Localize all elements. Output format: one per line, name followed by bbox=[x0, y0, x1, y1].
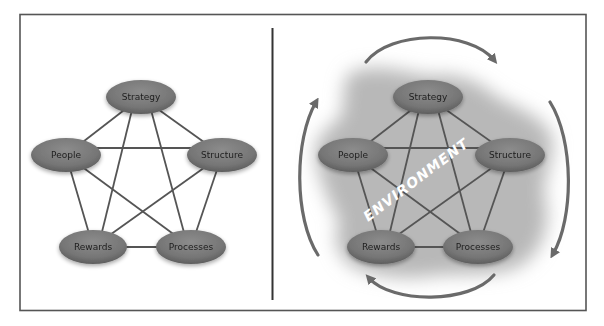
node-strategy-right: Strategy bbox=[393, 80, 463, 114]
node-processes-left: Processes bbox=[156, 230, 226, 264]
node-processes-right: Processes bbox=[443, 230, 513, 264]
node-label: People bbox=[338, 150, 368, 160]
node-structure-right: Structure bbox=[475, 138, 545, 172]
node-label: Rewards bbox=[362, 242, 401, 252]
node-label: Structure bbox=[489, 150, 531, 160]
star-model-diagram: ENVIRONMENT Strategy People Structure Re… bbox=[0, 0, 604, 326]
node-label: People bbox=[51, 150, 81, 160]
node-strategy-left: Strategy bbox=[106, 80, 176, 114]
node-people-right: People bbox=[318, 138, 388, 172]
node-label: Strategy bbox=[409, 92, 448, 102]
node-label: Strategy bbox=[122, 92, 161, 102]
node-rewards-right: Rewards bbox=[347, 230, 415, 264]
node-people-left: People bbox=[31, 138, 101, 172]
node-label: Processes bbox=[456, 242, 501, 252]
node-structure-left: Structure bbox=[187, 138, 257, 172]
node-label: Processes bbox=[169, 242, 214, 252]
node-label: Rewards bbox=[74, 242, 113, 252]
node-rewards-left: Rewards bbox=[59, 230, 127, 264]
node-label: Structure bbox=[201, 150, 243, 160]
